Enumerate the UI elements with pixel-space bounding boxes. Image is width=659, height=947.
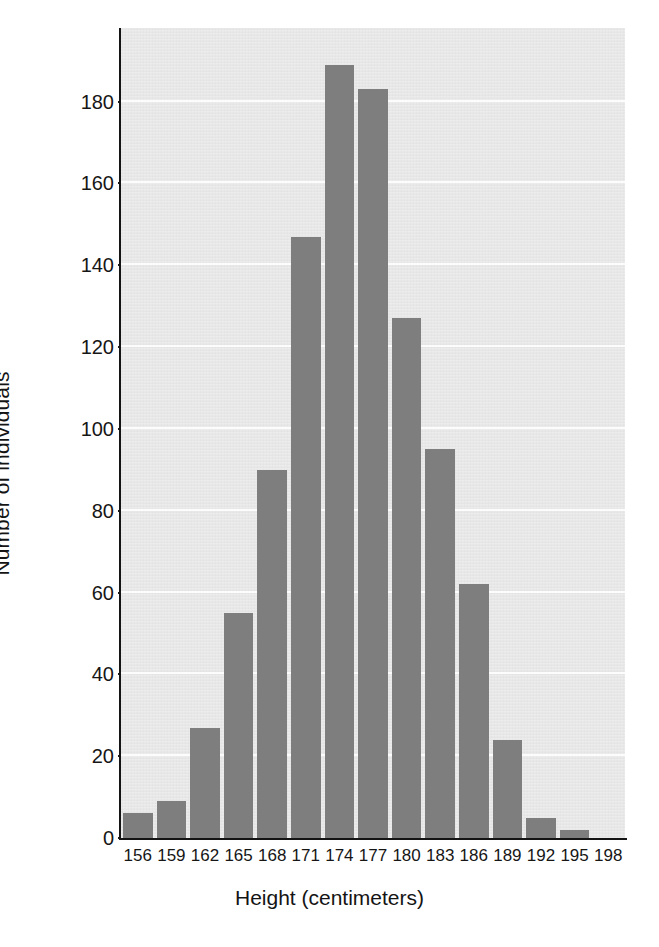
histogram-bar xyxy=(190,728,220,838)
histogram-bar xyxy=(224,613,254,838)
histogram-bar xyxy=(123,813,153,838)
x-tick-label: 198 xyxy=(594,846,622,866)
x-tick-label: 192 xyxy=(527,846,555,866)
histogram-bar xyxy=(560,830,590,838)
y-tick-label: 140 xyxy=(56,254,114,277)
histogram-bar xyxy=(392,318,422,838)
y-tick-label: 120 xyxy=(56,336,114,359)
histogram-bar xyxy=(157,801,187,838)
y-axis-ticks: 020406080100120140160180 xyxy=(56,0,114,947)
x-tick-label: 186 xyxy=(460,846,488,866)
x-tick-label: 189 xyxy=(493,846,521,866)
y-axis-title-text: Number of individuals xyxy=(0,371,54,575)
histogram-bar xyxy=(358,89,388,838)
histogram-bar xyxy=(526,818,556,838)
y-tick-label: 80 xyxy=(56,499,114,522)
histogram-figure: Number of individuals 020406080100120140… xyxy=(0,0,659,947)
y-tick-label: 160 xyxy=(56,172,114,195)
plot-area xyxy=(121,28,625,838)
x-tick-label: 177 xyxy=(359,846,387,866)
histogram-bar xyxy=(459,584,489,838)
x-tick-label: 162 xyxy=(191,846,219,866)
x-tick-label: 171 xyxy=(292,846,320,866)
x-axis-line xyxy=(119,838,627,840)
x-tick-label: 165 xyxy=(224,846,252,866)
y-tick-label: 100 xyxy=(56,417,114,440)
x-tick-label: 183 xyxy=(426,846,454,866)
histogram-bar xyxy=(425,449,455,838)
x-tick-label: 174 xyxy=(325,846,353,866)
x-tick-label: 180 xyxy=(392,846,420,866)
x-axis-title: Height (centimeters) xyxy=(0,886,659,910)
histogram-bar xyxy=(257,470,287,838)
y-tick-label: 20 xyxy=(56,745,114,768)
y-tick-label: 40 xyxy=(56,663,114,686)
x-tick-label: 168 xyxy=(258,846,286,866)
bar-series xyxy=(121,28,625,838)
x-tick-label: 159 xyxy=(157,846,185,866)
histogram-bar xyxy=(493,740,523,838)
y-axis-title: Number of individuals xyxy=(0,0,44,947)
y-tick-label: 60 xyxy=(56,581,114,604)
x-tick-label: 156 xyxy=(124,846,152,866)
y-tick-label: 180 xyxy=(56,90,114,113)
histogram-bar xyxy=(325,65,355,838)
y-tick-label: 0 xyxy=(56,827,114,850)
histogram-bar xyxy=(291,237,321,838)
x-axis-ticks: 1561591621651681711741771801831861891921… xyxy=(121,846,625,876)
x-tick-label: 195 xyxy=(560,846,588,866)
